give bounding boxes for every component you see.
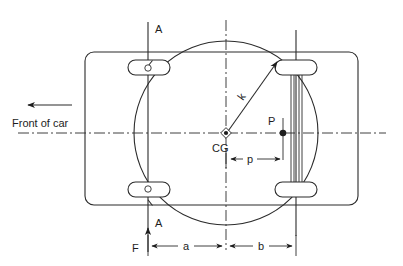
front-left-hub-marker: [145, 65, 151, 71]
diagram-canvas: CG k P p p A A Front of car: [0, 0, 403, 266]
rear-left-hub-marker: [145, 186, 151, 192]
front-of-car-label: Front of car: [12, 117, 69, 129]
section-label-a-top: A: [155, 23, 163, 35]
point-p-dot: [280, 130, 287, 137]
dimension-a-label: a: [183, 240, 190, 252]
dimension-b-label: b: [258, 240, 264, 252]
point-p-group: [280, 118, 287, 160]
cg-center-dot: [224, 131, 228, 135]
dimension-ab-group: [148, 235, 296, 256]
radius-k-label: k: [235, 90, 248, 102]
vehicle-cg-diagram: CG k P p p A A Front of car: [0, 0, 403, 266]
wheels-group: [128, 60, 317, 197]
front-right-wheel: [275, 60, 317, 75]
rear-right-wheel: [275, 182, 317, 197]
dimension-p-label-top: p: [247, 153, 253, 165]
car-body-outline: [85, 52, 358, 205]
point-p-label: P: [268, 115, 275, 127]
force-f-label: F: [132, 242, 139, 254]
section-label-a-bottom: A: [155, 217, 163, 229]
body-rect: [85, 52, 358, 205]
